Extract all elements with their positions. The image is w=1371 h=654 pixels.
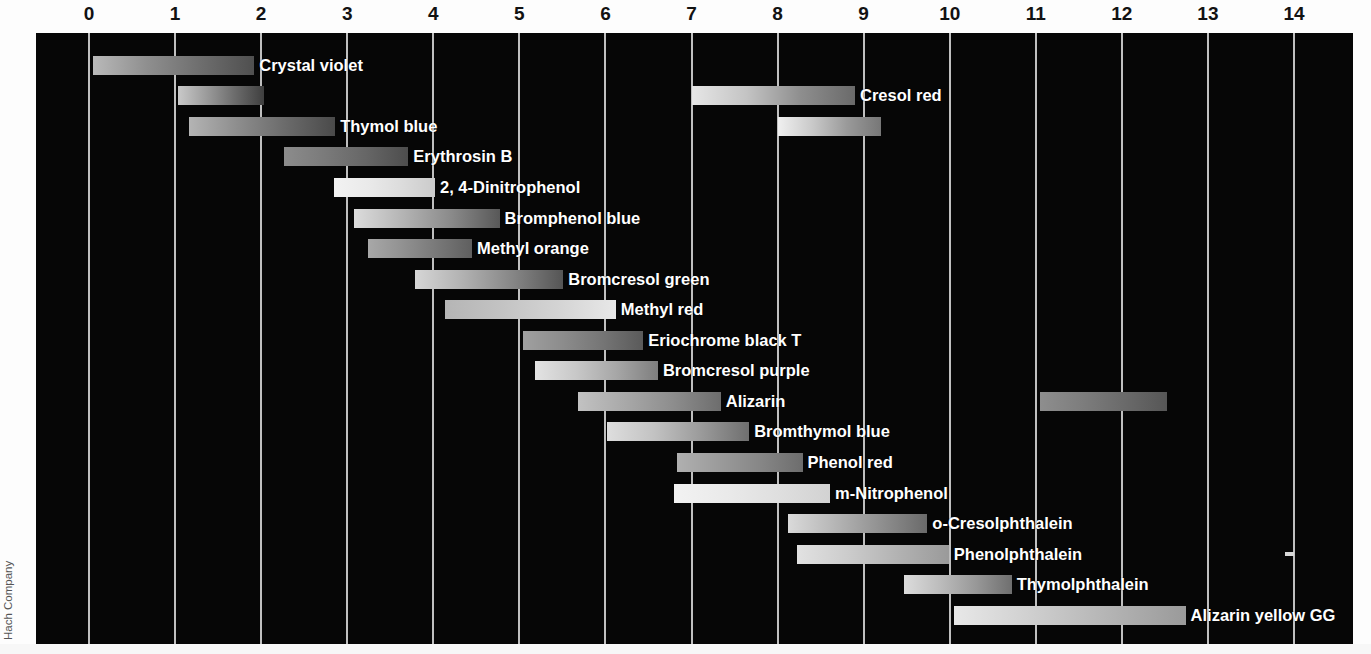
transition-band <box>607 422 749 441</box>
indicator-row: Cresol red <box>36 80 1353 111</box>
axis-tick-label-7: 7 <box>686 3 697 25</box>
transition-band <box>189 117 335 136</box>
transition-band <box>954 606 1186 625</box>
transition-band <box>284 147 409 166</box>
axis-tick-label-6: 6 <box>600 3 611 25</box>
indicator-row: Thymolphthalein <box>36 569 1353 600</box>
transition-band <box>93 56 254 75</box>
indicator-row: Bromthymol blue <box>36 416 1353 447</box>
transition-band <box>178 86 264 105</box>
transition-band <box>368 239 472 258</box>
axis-tick-label-2: 2 <box>256 3 267 25</box>
indicator-label: Bromthymol blue <box>754 420 890 442</box>
indicator-label: Methyl orange <box>477 237 589 259</box>
transition-band <box>778 117 881 136</box>
indicator-label: Thymolphthalein <box>1017 573 1149 595</box>
indicator-row: Crystal violet <box>36 50 1353 81</box>
ph-indicator-range-chart: 01234567891011121314 Crystal violetCreso… <box>0 0 1371 654</box>
indicator-row: Eriochrome black T <box>36 325 1353 356</box>
indicator-row: Methyl orange <box>36 233 1353 264</box>
axis-tick-label-11: 11 <box>1026 3 1046 25</box>
indicator-row: Bromcresol green <box>36 264 1353 295</box>
indicator-label: Eriochrome black T <box>648 329 801 351</box>
indicator-row: Bromcresol purple <box>36 355 1353 386</box>
transition-band <box>445 300 615 319</box>
transition-band <box>354 209 499 228</box>
x-axis-top: 01234567891011121314 <box>0 0 1371 33</box>
transition-band <box>677 453 803 472</box>
indicator-row: Thymol blue <box>36 111 1353 142</box>
indicator-label: Erythrosin B <box>413 145 512 167</box>
transition-band <box>1285 552 1294 556</box>
axis-tick-label-5: 5 <box>514 3 525 25</box>
indicator-label: Phenol red <box>808 451 893 473</box>
transition-band <box>797 545 948 564</box>
transition-band <box>415 270 563 289</box>
indicator-row: o-Cresolphthalein <box>36 508 1353 539</box>
indicator-label: 2, 4-Dinitrophenol <box>440 176 580 198</box>
transition-band <box>334 178 435 197</box>
indicator-row: Methyl red <box>36 294 1353 325</box>
indicator-label: Crystal violet <box>259 54 363 76</box>
axis-tick-label-10: 10 <box>939 3 960 25</box>
indicator-row: Alizarin <box>36 386 1353 417</box>
transition-band <box>535 361 658 380</box>
indicator-row: Erythrosin B <box>36 141 1353 172</box>
indicator-row: Alizarin yellow GG <box>36 600 1353 631</box>
indicator-label: Bromcresol purple <box>663 359 810 381</box>
axis-tick-label-3: 3 <box>342 3 353 25</box>
axis-tick-label-0: 0 <box>84 3 95 25</box>
indicator-row: 2, 4-Dinitrophenol <box>36 172 1353 203</box>
axis-tick-label-1: 1 <box>170 3 181 25</box>
transition-band <box>1040 392 1167 411</box>
indicator-row: Bromphenol blue <box>36 203 1353 234</box>
indicator-label: Alizarin yellow GG <box>1191 604 1336 626</box>
indicator-label: Bromphenol blue <box>505 207 641 229</box>
indicator-label: o-Cresolphthalein <box>932 512 1072 534</box>
indicator-row: Phenolphthalein <box>36 539 1353 570</box>
indicator-label: Thymol blue <box>340 115 437 137</box>
axis-tick-label-8: 8 <box>772 3 783 25</box>
indicator-label: Cresol red <box>860 84 942 106</box>
axis-tick-label-9: 9 <box>858 3 869 25</box>
indicator-label: Bromcresol green <box>568 268 709 290</box>
transition-band <box>788 514 927 533</box>
indicator-row: Phenol red <box>36 447 1353 478</box>
transition-band <box>674 484 830 503</box>
indicator-label: Phenolphthalein <box>954 543 1082 565</box>
indicator-label: m-Nitrophenol <box>835 482 948 504</box>
transition-band <box>578 392 721 411</box>
axis-tick-label-14: 14 <box>1283 3 1304 25</box>
transition-band <box>523 331 644 350</box>
figure-bottom-margin <box>0 644 1371 654</box>
credit-attribution: Hach Company <box>2 480 22 640</box>
indicator-row: m-Nitrophenol <box>36 478 1353 509</box>
axis-tick-label-12: 12 <box>1111 3 1132 25</box>
indicator-label: Alizarin <box>726 390 786 412</box>
plot-area: Crystal violetCresol redThymol blueEryth… <box>36 33 1353 644</box>
axis-tick-label-13: 13 <box>1197 3 1218 25</box>
indicator-label: Methyl red <box>621 298 704 320</box>
axis-tick-label-4: 4 <box>428 3 439 25</box>
transition-band <box>692 86 856 105</box>
credit-label: Hach Company <box>2 561 14 640</box>
transition-band <box>904 575 1012 594</box>
